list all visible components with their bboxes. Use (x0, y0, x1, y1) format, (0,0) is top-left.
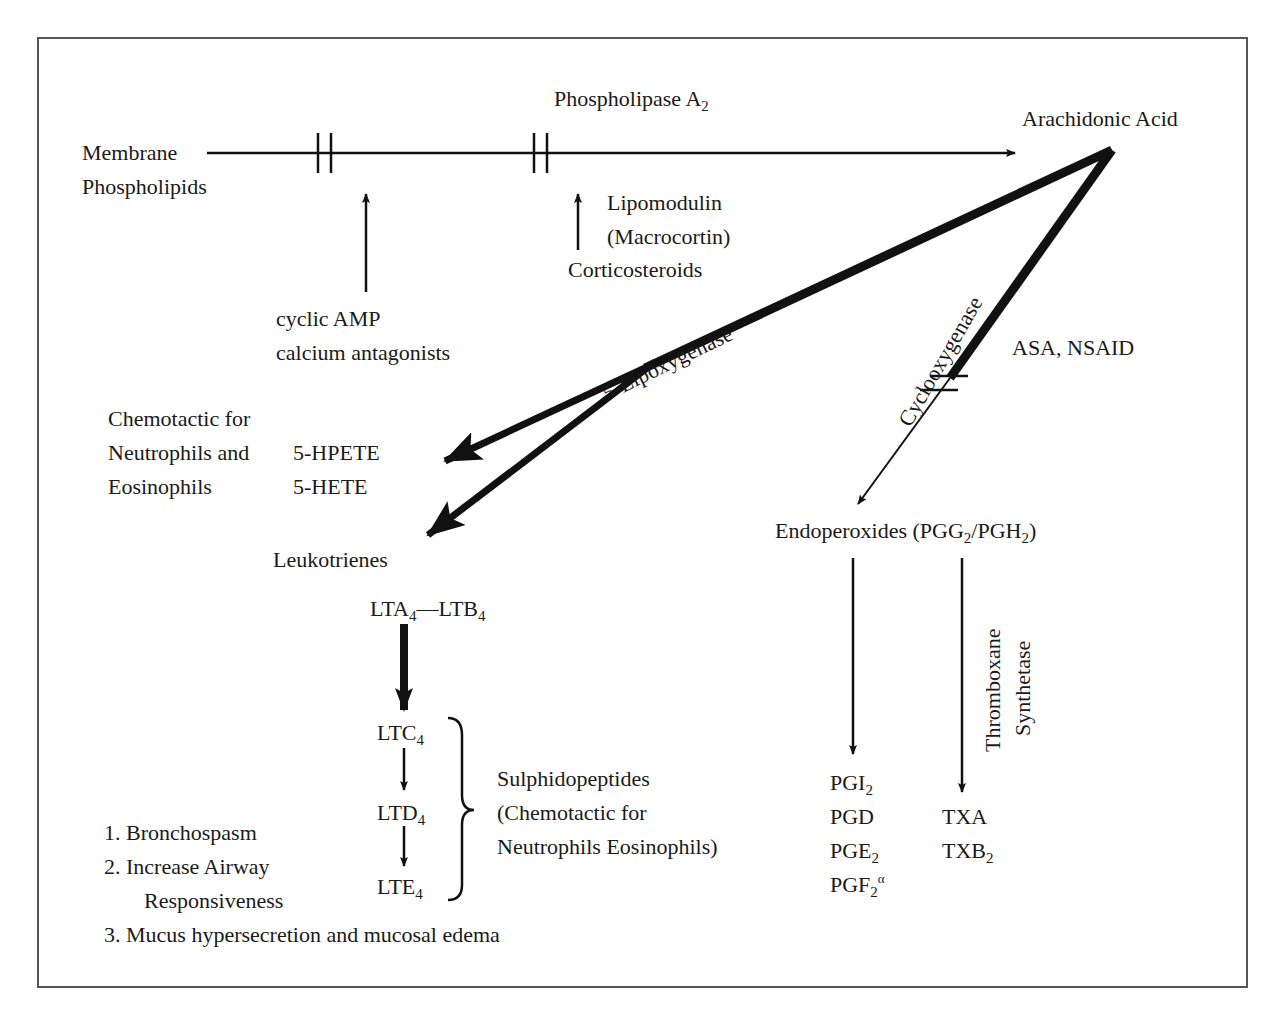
endoperoxides-label: Endoperoxides (PGG2/PGH2) (775, 514, 1036, 548)
thromboxanes-list: TXA TXB2 (942, 800, 994, 868)
camp-calcium-label: cyclic AMP calcium antagonists (276, 302, 450, 370)
hpete-hete-label: 5-HPETE 5-HETE (293, 436, 380, 504)
effect-item: 1. Bronchospasm (104, 816, 500, 850)
effects-list: 1. Bronchospasm 2. Increase Airway Respo… (104, 816, 500, 952)
membrane-phospholipids-label: Membrane Phospholipids (82, 136, 207, 204)
effect-item: 2. Increase Airway (104, 850, 500, 884)
lipomodulin-label: Lipomodulin (Macrocortin) (607, 186, 730, 254)
arachidonic-acid-label: Arachidonic Acid (1022, 102, 1178, 136)
effect-item: Responsiveness (104, 884, 500, 918)
lta-ltb-label: LTA4—LTB4 (370, 592, 486, 626)
phospholipase-label: Phospholipase A2 (554, 82, 709, 116)
corticosteroids-label: Corticosteroids (568, 253, 702, 287)
leukotrienes-label: Leukotrienes (273, 543, 388, 577)
prostaglandins-list: PGI2 PGD PGE2 PGF2α (830, 766, 885, 902)
thromboxane-synthetase-label: Thromboxane Synthetase (978, 629, 1038, 752)
effect-item: 3. Mucus hypersecretion and mucosal edem… (104, 918, 500, 952)
asa-nsaid-label: ASA, NSAID (1012, 331, 1134, 365)
ltc4-label: LTC4 (377, 716, 424, 750)
chemotactic-label: Chemotactic for Neutrophils and Eosinoph… (108, 402, 250, 504)
sulphidopeptides-label: Sulphidopeptides (Chemotactic for Neutro… (497, 762, 718, 864)
